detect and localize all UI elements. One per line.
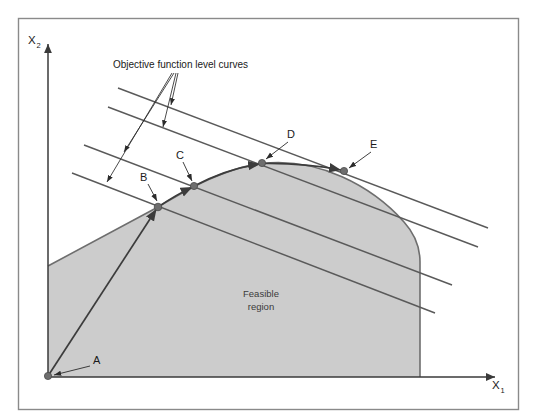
feasible-region-label-line1: Feasible <box>243 288 279 299</box>
point-label-e: E <box>370 138 377 150</box>
y-axis-label: X <box>28 34 36 46</box>
point-e-marker <box>340 167 347 174</box>
y-axis-label-subscript: 2 <box>37 41 41 50</box>
point-label-b: B <box>140 171 147 183</box>
feasible-region-label-line2: region <box>248 301 274 312</box>
point-label-a: A <box>93 354 101 366</box>
point-c-marker <box>190 182 197 189</box>
level-curves-annotation: Objective function level curves <box>113 59 248 70</box>
x-axis-label: X <box>492 379 500 391</box>
point-label-d: D <box>287 128 295 140</box>
x-axis-label-subscript: 1 <box>501 386 505 395</box>
point-a-marker <box>44 372 51 379</box>
point-b-marker <box>154 203 162 211</box>
figure-container: X 2 X 1 Objective function level curves … <box>0 0 537 420</box>
point-d-marker <box>258 159 265 166</box>
point-label-c: C <box>176 149 184 161</box>
feasible-region-diagram: X 2 X 1 Objective function level curves … <box>0 0 537 420</box>
